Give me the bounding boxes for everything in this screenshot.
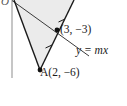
line-equation-label: y = mx	[76, 45, 108, 57]
point-b-label: (3, −3)	[60, 24, 91, 36]
origin-label: O	[1, 0, 9, 7]
geometry-figure: O (3, −3) y = mx A(2, −6)	[0, 0, 127, 106]
point-b-marker	[55, 28, 60, 33]
point-a-label: A(2, −6)	[40, 67, 80, 79]
